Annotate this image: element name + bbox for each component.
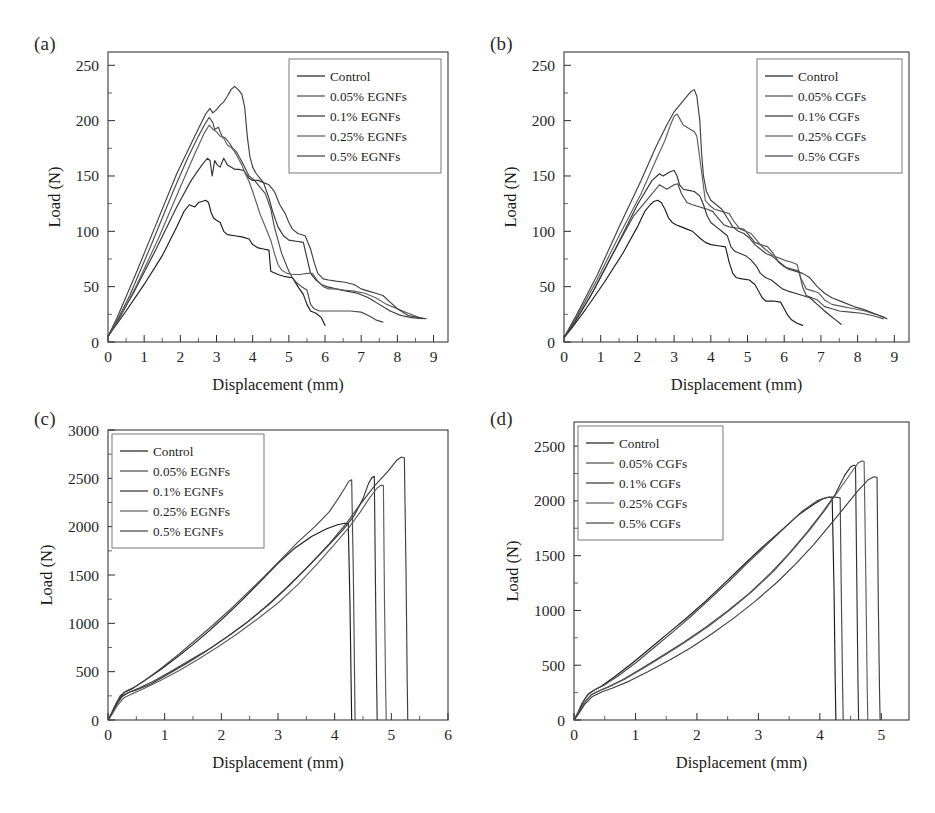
x-tick-label: 4 [816,726,824,743]
x-tick-label: 0 [104,726,112,743]
x-tick-label: 5 [285,348,293,365]
x-tick-label: 4 [249,348,257,365]
panel-c-label: (c) [34,408,56,430]
y-axis-title: Load (N) [37,545,56,606]
panel-c: (c) 0123456050010001500200025003000Displ… [0,400,470,800]
y-tick-label: 2500 [68,470,99,487]
x-axis-title: Displacement (mm) [212,375,344,394]
x-axis-title: Displacement (mm) [212,753,344,772]
curve-0-05-cgfs [564,184,883,338]
y-tick-label: 500 [76,663,100,680]
curve-control [108,200,325,336]
x-tick-label: 9 [890,348,898,365]
legend-label: 0.1% CGFs [619,476,681,491]
x-tick-label: 7 [357,348,365,365]
curve-0-1-egnfs [108,158,423,336]
panel-d: (d) 01234505001000150020002500Displaceme… [466,400,935,800]
y-tick-label: 250 [532,57,556,74]
panel-a-label: (a) [34,33,56,55]
x-tick-label: 5 [877,726,885,743]
x-tick-label: 4 [331,726,339,743]
legend-label: 0.25% EGNFs [330,129,407,144]
x-tick-label: 8 [393,348,401,365]
panel-b-chart: 0123456789050100150200250Displacement (m… [466,0,935,410]
legend-label: 0.25% EGNFs [153,504,230,519]
legend-label: 0.05% EGNFs [330,89,407,104]
x-tick-label: 1 [161,726,169,743]
x-tick-label: 3 [213,348,221,365]
y-tick-label: 0 [91,334,99,351]
y-tick-label: 3000 [68,422,99,439]
x-tick-label: 9 [430,348,438,365]
x-tick-label: 0 [560,348,568,365]
y-tick-label: 0 [91,712,99,729]
legend-label: 0.05% CGFs [798,89,866,104]
y-tick-label: 250 [76,57,100,74]
y-tick-label: 0 [557,712,565,729]
x-tick-label: 2 [693,726,701,743]
panel-a: (a) 0123456789050100150200250Displacemen… [0,0,470,410]
x-tick-label: 2 [217,726,225,743]
panel-a-chart: 0123456789050100150200250Displacement (m… [0,0,470,410]
x-tick-label: 3 [274,726,282,743]
panel-b: (b) 0123456789050100150200250Displacemen… [466,0,935,410]
x-tick-label: 6 [321,348,329,365]
panel-d-chart: 01234505001000150020002500Displacement (… [466,400,935,800]
y-tick-label: 1500 [68,567,99,584]
legend-label: Control [619,436,660,451]
y-tick-label: 1500 [534,547,565,564]
y-tick-label: 1000 [534,602,565,619]
y-tick-label: 50 [84,278,100,295]
x-tick-label: 6 [444,726,452,743]
x-axis-title: Displacement (mm) [671,375,803,394]
y-tick-label: 1000 [68,615,99,632]
y-tick-label: 50 [540,278,556,295]
legend-label: 0.1% CGFs [798,109,860,124]
x-tick-label: 1 [632,726,640,743]
legend: Control0.05% EGNFs0.1% EGNFs0.25% EGNFs0… [112,434,264,548]
x-tick-label: 3 [755,726,763,743]
y-tick-label: 150 [76,167,100,184]
legend-label: 0.1% EGNFs [153,484,223,499]
legend-label: 0.1% EGNFs [330,109,400,124]
x-tick-label: 3 [670,348,678,365]
curve-control [108,523,352,720]
y-tick-label: 2000 [68,518,99,535]
x-tick-label: 8 [854,348,862,365]
panel-b-label: (b) [490,33,513,55]
y-axis-title: Load (N) [503,541,522,602]
panel-d-label: (d) [490,408,513,430]
legend-label: 0.25% CGFs [619,496,687,511]
y-tick-label: 200 [76,112,100,129]
legend: Control0.05% CGFs0.1% CGFs0.25% CGFs0.5%… [578,426,723,540]
y-axis-title: Load (N) [45,167,64,228]
x-tick-label: 0 [104,348,112,365]
curve-0-1-cgfs [564,170,841,337]
legend: Control0.05% CGFs0.1% CGFs0.25% CGFs0.5%… [757,59,902,173]
legend-label: 0.5% EGNFs [153,524,223,539]
legend-label: 0.5% CGFs [619,516,681,531]
y-tick-label: 500 [542,657,566,674]
y-tick-label: 200 [532,112,556,129]
legend-label: 0.25% CGFs [798,129,866,144]
legend-label: Control [798,69,839,84]
legend-label: Control [330,69,371,84]
x-tick-label: 0 [570,726,578,743]
legend-label: 0.5% CGFs [798,149,860,164]
x-tick-label: 5 [387,726,395,743]
y-tick-label: 0 [547,334,555,351]
legend-label: 0.5% EGNFs [330,149,400,164]
x-tick-label: 6 [780,348,788,365]
x-axis-title: Displacement (mm) [676,753,808,772]
y-axis-title: Load (N) [501,167,520,228]
y-tick-label: 2000 [534,492,565,509]
x-tick-label: 2 [634,348,642,365]
x-tick-label: 2 [176,348,184,365]
legend-label: 0.05% CGFs [619,456,687,471]
x-tick-label: 5 [744,348,752,365]
x-tick-label: 1 [597,348,605,365]
y-tick-label: 150 [532,167,556,184]
x-tick-label: 7 [817,348,825,365]
x-tick-label: 1 [140,348,148,365]
y-tick-label: 2500 [534,438,565,455]
